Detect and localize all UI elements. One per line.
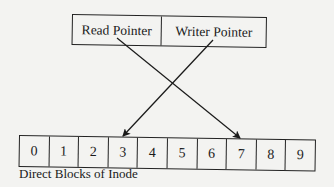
file-pointer-box: Read Pointer Writer Pointer: [72, 14, 267, 48]
block-cell-1: 1: [49, 136, 79, 166]
block-cell-3: 3: [108, 137, 138, 167]
writer-pointer-cell: Writer Pointer: [162, 16, 266, 47]
block-cell-4: 4: [138, 138, 168, 168]
block-cell-8: 8: [256, 140, 286, 170]
block-cell-0: 0: [20, 136, 50, 166]
read-pointer-arrow: [117, 38, 240, 138]
block-cell-5: 5: [167, 138, 197, 168]
direct-blocks-caption: Direct Blocks of Inode: [19, 166, 138, 182]
block-cell-2: 2: [79, 137, 109, 167]
block-cell-6: 6: [197, 139, 227, 169]
writer-pointer-arrow: [123, 40, 213, 136]
block-cell-7: 7: [227, 139, 257, 169]
block-cell-9: 9: [286, 140, 315, 170]
read-pointer-cell: Read Pointer: [73, 15, 162, 45]
